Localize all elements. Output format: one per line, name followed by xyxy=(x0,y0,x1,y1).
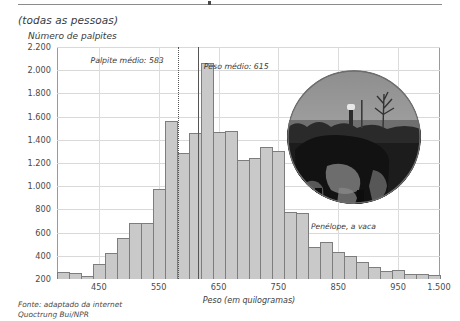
x-axis-title: Peso (em quilogramas) xyxy=(203,296,295,305)
y-tick-label-1400: 1.400 xyxy=(28,135,51,145)
x-tick-label-550: 550 xyxy=(151,282,167,292)
x-tick-label-950: 950 xyxy=(390,282,406,292)
y-tick-label-400: 400 xyxy=(35,251,51,261)
y-tick-label-1800: 1.800 xyxy=(28,88,51,98)
top-divider-rule xyxy=(18,4,442,5)
y-tick-label-600: 600 xyxy=(35,228,51,238)
reference-line-mean-guess xyxy=(178,47,179,279)
cow-photo-image xyxy=(287,70,421,204)
x-tick-label-650: 650 xyxy=(211,282,227,292)
x-tick-label-1500: 1.500 xyxy=(427,282,450,292)
cow-photo xyxy=(287,70,421,204)
y-tick-label-800: 800 xyxy=(35,204,51,214)
x-tick-label-450: 450 xyxy=(91,282,107,292)
annotation-mean-guess: Palpite médio: 583 xyxy=(90,56,163,65)
source-line-1: Fonte: adaptado da internet xyxy=(18,300,122,309)
reference-line-true-weight xyxy=(198,47,199,279)
y-tick-label-200: 200 xyxy=(35,274,51,284)
source-line-2: Quoctrung Bui/NPR xyxy=(18,310,89,319)
y-tick-label-2000: 2.000 xyxy=(28,65,51,75)
x-tick-label-750: 750 xyxy=(271,282,287,292)
chart-figure: (todas as pessoas) Número de palpites 20… xyxy=(0,0,460,321)
chart-subtitle: (todas as pessoas) xyxy=(18,14,118,26)
y-tick-label-1200: 1.200 xyxy=(28,158,51,168)
y-axis-title: Número de palpites xyxy=(28,31,117,41)
y-tick-label-1000: 1.000 xyxy=(28,181,51,191)
photo-caption: Penélope, a vaca xyxy=(311,222,376,231)
y-tick-label-1600: 1.600 xyxy=(28,112,51,122)
y-tick-label-2200: 2.200 xyxy=(28,42,51,52)
histogram-bar xyxy=(428,275,441,279)
x-tick-label-850: 850 xyxy=(330,282,346,292)
annotation-true-weight: Peso médio: 615 xyxy=(204,62,269,71)
